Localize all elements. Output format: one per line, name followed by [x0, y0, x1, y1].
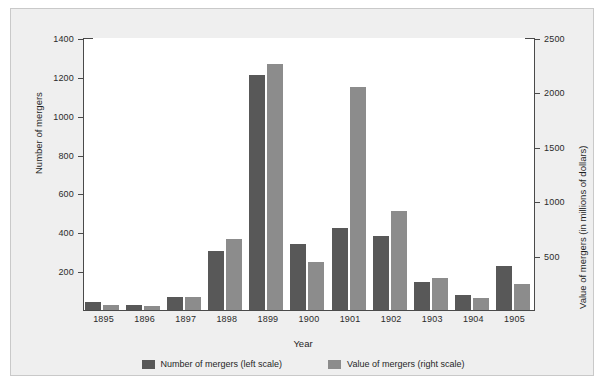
x-axis-title: Year: [11, 338, 595, 349]
y-tick-label-left: 1000: [53, 112, 74, 122]
x-tick-label: 1904: [453, 314, 494, 324]
bar-value-of-mergers: [144, 306, 160, 310]
bar-number-of-mergers: [290, 244, 306, 310]
y-tick-label-left: 1400: [53, 34, 74, 44]
bar-number-of-mergers: [455, 295, 471, 310]
y-tick-right: [535, 257, 540, 258]
bar-value-of-mergers: [308, 262, 324, 310]
legend-label: Number of mergers (left scale): [161, 359, 283, 369]
bar-number-of-mergers: [126, 305, 142, 310]
bar-value-of-mergers: [514, 284, 530, 310]
x-tick-label: 1898: [206, 314, 247, 324]
y-tick-right: [535, 148, 540, 149]
y-tick-label-left: 1200: [53, 73, 74, 83]
y-tick-right: [535, 39, 540, 40]
bar-number-of-mergers: [373, 236, 389, 310]
bar-number-of-mergers: [167, 297, 183, 310]
bar-number-of-mergers: [332, 228, 348, 310]
y-tick-label-left: 600: [58, 189, 74, 199]
y-tick-label-right: 1500: [544, 143, 565, 153]
bar-group: 1902: [371, 38, 412, 310]
bar-group: 1897: [165, 38, 206, 310]
y-tick-label-right: 1000: [544, 197, 565, 207]
chart-figure: Number of mergers Value of mergers (in m…: [10, 8, 594, 376]
bar-group: 1898: [206, 38, 247, 310]
x-tick-label: 1897: [165, 314, 206, 324]
bar-group: 1900: [288, 38, 329, 310]
y-tick-label-right: 2000: [544, 88, 565, 98]
bar-value-of-mergers: [185, 297, 201, 310]
x-tick-label: 1903: [412, 314, 453, 324]
bar-group: 1904: [453, 38, 494, 310]
y-tick-label-right: 2500: [544, 34, 565, 44]
y-tick-label-left: 200: [58, 267, 74, 277]
plot-area: 200400600800100012001400 500100015002000…: [83, 38, 535, 311]
bar-value-of-mergers: [267, 64, 283, 310]
x-tick-label: 1902: [371, 314, 412, 324]
bar-group: 1905: [494, 38, 535, 310]
bar-value-of-mergers: [432, 278, 448, 310]
axis-spine-bottom: [83, 310, 535, 311]
bar-number-of-mergers: [208, 251, 224, 310]
bar-number-of-mergers: [496, 266, 512, 310]
y-axis-left-title: Number of mergers: [33, 92, 44, 174]
x-tick-label: 1901: [330, 314, 371, 324]
x-tick-label: 1905: [494, 314, 535, 324]
bar-group: 1899: [247, 38, 288, 310]
legend-swatch: [142, 360, 155, 369]
legend-swatch: [328, 360, 341, 369]
bar-number-of-mergers: [414, 282, 430, 310]
legend-label: Value of mergers (right scale): [347, 359, 464, 369]
x-tick-label: 1900: [288, 314, 329, 324]
legend-item: Number of mergers (left scale): [142, 359, 283, 369]
bar-value-of-mergers: [391, 211, 407, 310]
y-tick-right: [535, 93, 540, 94]
bar-group: 1896: [124, 38, 165, 310]
y-tick-label-right: 500: [544, 252, 560, 262]
bar-value-of-mergers: [350, 87, 366, 310]
bar-group: 1895: [83, 38, 124, 310]
y-tick-right: [535, 202, 540, 203]
x-tick-label: 1899: [247, 314, 288, 324]
x-tick-label: 1895: [83, 314, 124, 324]
y-tick-label-left: 800: [58, 151, 74, 161]
chart-legend: Number of mergers (left scale)Value of m…: [11, 359, 595, 369]
x-tick-label: 1896: [124, 314, 165, 324]
bar-value-of-mergers: [473, 298, 489, 310]
bar-value-of-mergers: [226, 239, 242, 310]
y-axis-right-title: Value of mergers (in millions of dollars…: [577, 146, 588, 310]
bar-number-of-mergers: [85, 302, 101, 310]
bar-group: 1903: [412, 38, 453, 310]
y-tick-label-left: 400: [58, 228, 74, 238]
legend-item: Value of mergers (right scale): [328, 359, 464, 369]
bar-number-of-mergers: [249, 75, 265, 310]
bar-group: 1901: [330, 38, 371, 310]
bar-value-of-mergers: [103, 305, 119, 310]
